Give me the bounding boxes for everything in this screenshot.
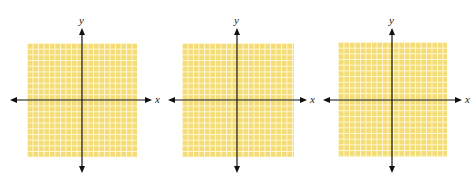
arrow-left-icon bbox=[323, 97, 330, 103]
arrow-up-icon bbox=[389, 28, 395, 35]
arrow-down-icon bbox=[234, 166, 240, 173]
axes bbox=[310, 0, 473, 183]
arrow-right-icon bbox=[145, 97, 152, 103]
coordinate-plane-1: x y bbox=[0, 0, 160, 183]
y-axis-label: y bbox=[234, 15, 239, 26]
axes bbox=[155, 0, 315, 183]
coordinate-plane-3: x y bbox=[310, 0, 473, 183]
y-axis-label: y bbox=[389, 15, 394, 26]
y-axis-label: y bbox=[79, 15, 84, 26]
arrow-left-icon bbox=[10, 97, 17, 103]
arrow-up-icon bbox=[234, 28, 240, 35]
arrow-left-icon bbox=[168, 97, 175, 103]
coordinate-plane-2: x y bbox=[155, 0, 315, 183]
axes bbox=[0, 0, 160, 183]
arrow-down-icon bbox=[79, 166, 85, 173]
arrow-right-icon bbox=[455, 97, 462, 103]
arrow-down-icon bbox=[389, 166, 395, 173]
x-axis-label: x bbox=[465, 94, 470, 105]
arrow-right-icon bbox=[300, 97, 307, 103]
arrow-up-icon bbox=[79, 28, 85, 35]
